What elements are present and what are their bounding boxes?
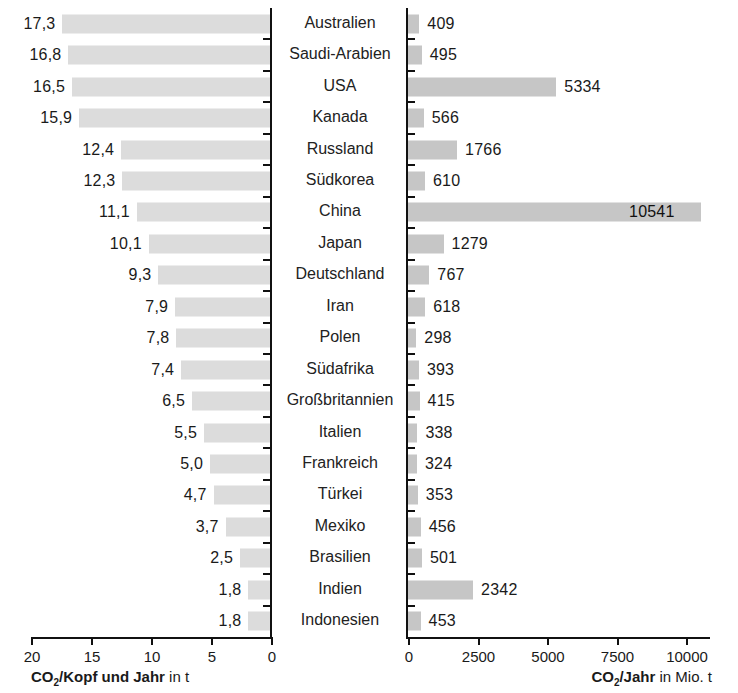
bar-co2-per-capita [248, 580, 270, 599]
bar-co2-total [408, 455, 417, 474]
right-axis-tick-label: 0 [405, 648, 413, 665]
bar-co2-total [408, 14, 419, 33]
category-tick [263, 196, 270, 198]
left-axis-caption-tail: in t [169, 668, 189, 685]
bar-value-label-per-capita: 11,1 [99, 203, 130, 221]
right-bar-row: 393 [406, 354, 738, 385]
right-axis-tick-label: 10000 [666, 648, 708, 665]
bar-co2-total [408, 486, 418, 505]
category-tick [408, 510, 415, 512]
left-axis-tick [31, 637, 33, 645]
left-bar-row: 2,5 [0, 543, 274, 574]
category-tick [263, 133, 270, 135]
bar-value-label-per-capita: 6,5 [162, 392, 185, 410]
right-bar-row: 338 [406, 417, 738, 448]
category-tick [408, 416, 415, 418]
right-axis-tick [547, 637, 549, 645]
bar-value-label-per-capita: 12,3 [83, 172, 115, 190]
right-bar-row: 453 [406, 606, 738, 637]
bar-co2-per-capita [121, 140, 270, 159]
bar-co2-total [408, 549, 422, 568]
right-bar-row: 324 [406, 448, 738, 479]
right-axis-tick-label: 2500 [462, 648, 495, 665]
right-axis-tick-label: 7500 [601, 648, 634, 665]
bar-value-label-total: 453 [429, 612, 456, 630]
category-tick [263, 164, 270, 166]
bar-co2-total [408, 392, 420, 411]
bar-value-label-per-capita: 5,5 [174, 424, 197, 442]
bar-value-label-total: 566 [432, 109, 459, 127]
bar-co2-per-capita [137, 203, 270, 222]
left-bar-row: 15,9 [0, 102, 274, 133]
category-tick [408, 447, 415, 449]
right-bar-row: 409 [406, 8, 738, 39]
bar-value-label-per-capita: 4,7 [184, 486, 207, 504]
left-axis-tick-label: 10 [144, 648, 161, 665]
category-label-china: China [276, 202, 404, 220]
bar-co2-per-capita [72, 77, 270, 96]
bar-value-label-per-capita: 17,3 [23, 15, 55, 33]
category-tick [408, 605, 415, 607]
bar-co2-per-capita [214, 486, 270, 505]
bar-co2-total [408, 140, 457, 159]
category-tick [263, 70, 270, 72]
bar-co2-total [408, 46, 422, 65]
left-axis-tick [271, 637, 273, 645]
left-axis-tick-label: 15 [84, 648, 101, 665]
bar-value-label-total: 409 [427, 15, 454, 33]
category-label-s-dafrika: Südafrika [276, 360, 404, 378]
left-bar-row: 5,5 [0, 417, 274, 448]
bar-value-label-total: 610 [433, 172, 460, 190]
category-tick [408, 353, 415, 355]
category-label-iran: Iran [276, 297, 404, 315]
category-tick [263, 510, 270, 512]
bar-co2-total [408, 109, 424, 128]
bar-value-label-per-capita: 2,5 [210, 549, 233, 567]
left-axis-tick-label: 0 [268, 648, 276, 665]
right-axis-caption: CO2/Jahr in Mio. t [591, 668, 712, 688]
bar-co2-per-capita [176, 329, 270, 348]
bar-co2-per-capita [248, 612, 270, 631]
right-bar-chart-panel: 4094955334566176661010541127976761829839… [406, 8, 738, 637]
bar-value-label-total: 415 [428, 392, 455, 410]
left-bar-row: 7,9 [0, 291, 274, 322]
bar-co2-per-capita [175, 297, 270, 316]
left-axis-tick [151, 637, 153, 645]
left-bar-row: 11,1 [0, 197, 274, 228]
bar-value-label-per-capita: 7,9 [145, 298, 168, 316]
left-axis-tick [211, 637, 213, 645]
category-label-indonesien: Indonesien [276, 611, 404, 629]
bar-value-label-per-capita: 1,8 [219, 581, 242, 599]
bar-co2-per-capita [122, 171, 270, 190]
right-bar-row: 1766 [406, 134, 738, 165]
right-bar-row: 566 [406, 102, 738, 133]
bar-co2-total [408, 329, 416, 348]
category-tick [408, 196, 415, 198]
right-bar-row: 618 [406, 291, 738, 322]
left-bar-row: 12,3 [0, 165, 274, 196]
bar-value-label-total: 353 [426, 486, 453, 504]
left-bar-row: 10,1 [0, 228, 274, 259]
category-tick [408, 479, 415, 481]
right-bar-row: 2342 [406, 574, 738, 605]
bar-co2-per-capita [240, 549, 270, 568]
right-axis-caption-bold: CO2/Jahr [591, 668, 655, 685]
bar-co2-total [408, 423, 417, 442]
bar-value-label-per-capita: 10,1 [110, 235, 142, 253]
category-label-polen: Polen [276, 328, 404, 346]
bar-co2-per-capita [158, 266, 270, 285]
right-axis-tick [617, 637, 619, 645]
category-label-gro-britannien: Großbritannien [276, 391, 404, 409]
bar-co2-total [408, 612, 421, 631]
category-tick [408, 322, 415, 324]
right-bar-row: 1279 [406, 228, 738, 259]
category-label-mexiko: Mexiko [276, 517, 404, 535]
category-tick [263, 542, 270, 544]
category-tick [408, 573, 415, 575]
bar-value-label-per-capita: 9,3 [129, 266, 152, 284]
bar-value-label-total: 1279 [452, 235, 488, 253]
left-bar-row: 7,4 [0, 354, 274, 385]
category-tick [408, 227, 415, 229]
bar-value-label-total: 767 [437, 266, 464, 284]
category-tick [408, 290, 415, 292]
